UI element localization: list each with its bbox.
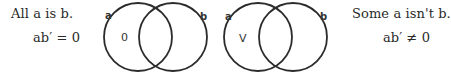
venn-diagram-all-a-is-b: [104, 3, 207, 71]
circle-a-label: a: [105, 10, 112, 21]
circle-b-label: b: [320, 11, 327, 22]
circle-b-label: b: [200, 11, 207, 22]
circle-a-label: a: [225, 11, 232, 22]
some-a-isnt-b-formula: ab′ ≠ 0: [383, 30, 430, 45]
empty-region-mark: 0: [121, 31, 128, 44]
circle-a: [104, 3, 172, 71]
circle-b: [259, 3, 327, 71]
circle-a: [224, 3, 292, 71]
circle-b: [139, 3, 207, 71]
nonempty-region-mark: V: [239, 32, 247, 45]
some-a-isnt-b-statement: Some a isn't b.: [352, 6, 451, 21]
